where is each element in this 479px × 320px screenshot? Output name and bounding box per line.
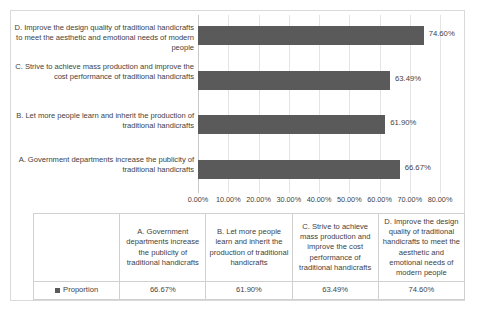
table-corner-cell — [34, 214, 120, 282]
bar-row: 61.90% — [198, 104, 440, 149]
bar-b[interactable] — [198, 115, 385, 134]
bar-value-label-b: 61.90% — [390, 118, 416, 127]
bar-row: 74.60% — [198, 15, 440, 60]
x-tick-label: 10.00% — [216, 195, 241, 204]
x-tick-label: 70.00% — [397, 195, 422, 204]
bar-c[interactable] — [198, 71, 390, 90]
bar-row: 63.49% — [198, 60, 440, 105]
legend-swatch-icon — [55, 288, 60, 293]
plot-area: 74.60% 63.49% 61.90% 66.67% — [198, 15, 440, 193]
table-header-d: D. Improve the design quality of traditi… — [378, 214, 464, 282]
x-tick-label: 80.00% — [428, 195, 453, 204]
table-header-row: A. Government departments increase the p… — [34, 214, 465, 282]
x-tick-label: 0.00% — [188, 195, 209, 204]
plot-region: D. Improve the design quality of traditi… — [11, 11, 466, 207]
category-label-d: D. Improve the design quality of traditi… — [13, 23, 194, 54]
table-header-c: C. Strive to achieve mass production and… — [292, 214, 378, 282]
table-header-a: A. Government departments increase the p… — [120, 214, 206, 282]
legend-entry: Proportion — [34, 282, 120, 300]
table-header-b: B. Let more people learn and inherit the… — [206, 214, 292, 282]
bar-value-label-a: 66.67% — [405, 163, 431, 172]
category-label-a: A. Government departments increase the p… — [13, 155, 194, 175]
x-tick-label: 60.00% — [367, 195, 392, 204]
bar-value-label-c: 63.49% — [395, 74, 421, 83]
gridline — [440, 15, 441, 193]
x-tick-label: 20.00% — [246, 195, 271, 204]
x-tick-label: 50.00% — [337, 195, 362, 204]
table-value-b: 61.90% — [206, 282, 292, 300]
data-table: A. Government departments increase the p… — [33, 213, 465, 301]
table-value-row: Proportion 66.67% 61.90% 63.49% 74.60% — [34, 282, 465, 300]
chart-frame: D. Improve the design quality of traditi… — [10, 10, 465, 301]
table-value-c: 63.49% — [292, 282, 378, 300]
bar-d[interactable] — [198, 26, 424, 45]
table-value-a: 66.67% — [120, 282, 206, 300]
bar-row: 66.67% — [198, 149, 440, 194]
x-tick-label: 40.00% — [307, 195, 332, 204]
category-label-b: B. Let more people learn and inherit the… — [13, 111, 194, 131]
x-axis-tick-labels: 0.00%10.00%20.00%30.00%40.00%50.00%60.00… — [198, 195, 478, 209]
x-tick-label: 30.00% — [276, 195, 301, 204]
category-label-c: C. Strive to achieve mass production and… — [13, 62, 194, 82]
category-axis-labels: D. Improve the design quality of traditi… — [13, 15, 194, 193]
bar-a[interactable] — [198, 160, 400, 179]
bar-value-label-d: 74.60% — [429, 29, 455, 38]
legend-label: Proportion — [63, 285, 98, 295]
table-value-d: 74.60% — [378, 282, 464, 300]
